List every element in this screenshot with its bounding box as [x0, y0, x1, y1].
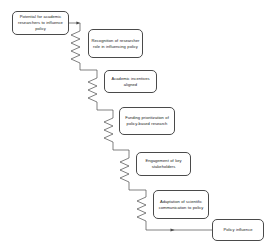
node-label: Academic incentives aligned — [105, 76, 156, 88]
connector-n5-to-n6-step — [146, 221, 212, 230]
node-adaptation-of-scientific-communication[interactable]: Adaptation of scientific communication t… — [153, 190, 209, 219]
connector-n2-to-n3-spring — [88, 78, 97, 102]
node-label: Adaptation of scientific communication t… — [154, 199, 208, 211]
connector-n4-to-n5-spring — [120, 158, 129, 182]
node-engagement-of-key-stakeholders[interactable]: Engagement of key stakeholders — [136, 152, 191, 176]
node-potential-for-academic-researchers[interactable]: Potential for academic researchers to in… — [12, 11, 69, 35]
connector-n5-to-n6-spring — [137, 197, 146, 221]
connector-n3-to-n4-spring — [104, 118, 113, 142]
node-label: Potential for academic researchers to in… — [13, 14, 68, 31]
connector-n4-to-n5-step — [129, 182, 146, 197]
arrowhead-icon-n7 — [171, 229, 175, 232]
connector-n3-to-n4-step — [113, 142, 129, 158]
node-funding-prioritization[interactable]: Funding prioritization of policy-based r… — [119, 107, 175, 135]
node-label: Recognition of researcher role in influe… — [89, 38, 142, 50]
connector-n6-to-n7 — [171, 229, 175, 232]
node-label: Engagement of key stakeholders — [137, 158, 190, 170]
node-label: Policy influence — [221, 227, 254, 233]
node-label: Funding prioritization of policy-based r… — [120, 115, 174, 127]
connector-n1-to-n2-step — [80, 63, 97, 78]
node-academic-incentives-aligned[interactable]: Academic incentives aligned — [104, 70, 157, 93]
node-policy-influence[interactable]: Policy influence — [212, 219, 264, 241]
flowchart-diagram: Potential for academic researchers to in… — [0, 0, 274, 249]
node-recognition-of-researcher-role[interactable]: Recognition of researcher role in influe… — [88, 29, 143, 58]
connector-n2-to-n3-step — [97, 102, 113, 118]
connector-n1-to-n2-spring — [71, 31, 80, 63]
